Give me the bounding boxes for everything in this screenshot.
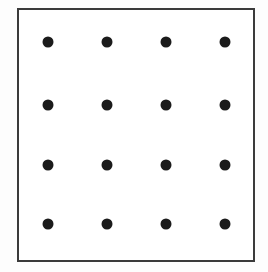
square-outline-frame (17, 8, 255, 262)
figure-canvas (0, 0, 268, 272)
